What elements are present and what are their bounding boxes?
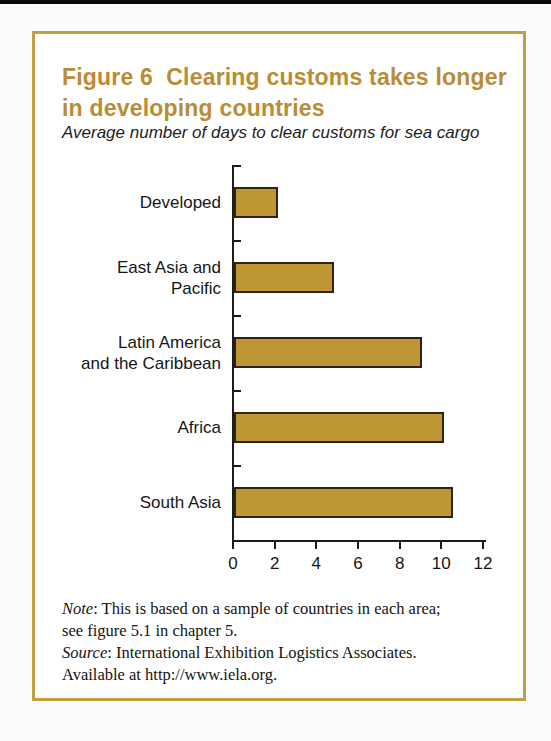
x-axis-tick (357, 542, 359, 549)
bar (234, 487, 453, 518)
x-axis-tick (440, 542, 442, 549)
note-text: Note: This is based on a sample of count… (62, 598, 498, 642)
x-axis-tick-label: 6 (336, 554, 380, 574)
source-label: Source (62, 643, 107, 662)
x-axis-tick-label: 4 (294, 554, 338, 574)
category-label: Latin America and the Caribbean (35, 315, 221, 390)
x-axis-line (232, 540, 486, 542)
y-axis-tick (234, 390, 241, 392)
y-axis-tick (234, 465, 241, 467)
note-label: Note (62, 599, 93, 618)
x-axis-tick (399, 542, 401, 549)
category-label: Developed (35, 165, 221, 240)
category-label: East Asia and Pacific (35, 240, 221, 315)
y-axis-tick (234, 165, 241, 167)
category-label: Africa (35, 390, 221, 465)
y-axis-tick (234, 240, 241, 242)
x-axis-tick-label: 8 (378, 554, 422, 574)
x-axis-tick (232, 542, 234, 549)
chart: DevelopedEast Asia and PacificLatin Amer… (35, 34, 523, 594)
x-axis-tick-label: 10 (419, 554, 463, 574)
bar (234, 262, 334, 293)
x-axis-tick (274, 542, 276, 549)
source-text: Source: International Exhibition Logisti… (62, 642, 498, 686)
figure-notes: Note: This is based on a sample of count… (62, 598, 498, 686)
figure-box: Figure 6 Clearing customs takes longer i… (32, 31, 526, 701)
page-top-strip (0, 0, 551, 4)
bar (234, 337, 422, 368)
category-label: South Asia (35, 465, 221, 540)
x-axis-tick (315, 542, 317, 549)
x-axis-tick (482, 542, 484, 549)
x-axis-tick-label: 0 (211, 554, 255, 574)
bar (234, 187, 278, 218)
y-axis-tick (234, 315, 241, 317)
x-axis-tick-label: 2 (253, 554, 297, 574)
x-axis-tick-label: 12 (461, 554, 505, 574)
bar (234, 412, 444, 443)
